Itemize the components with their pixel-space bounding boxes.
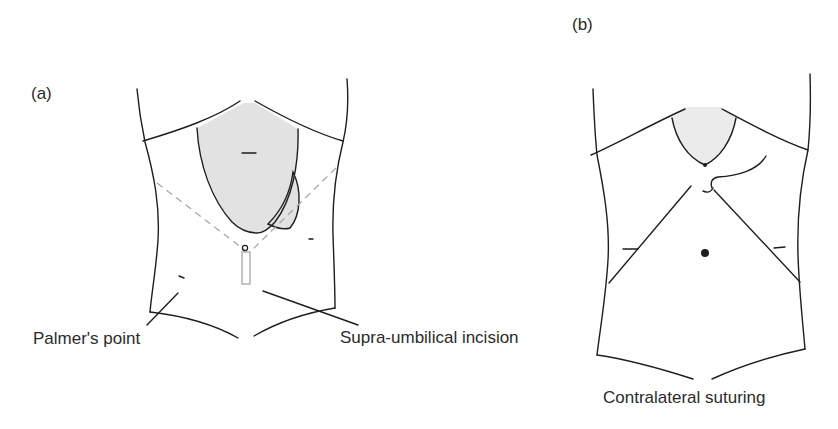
- panel-b-umbilicus-dot: [701, 249, 709, 257]
- panel-a-drawing: [137, 79, 358, 338]
- panel-b-suture-curve: [711, 156, 766, 188]
- panel-b-bottom-left-arc: [597, 355, 693, 379]
- panel-b-left-diagonal: [609, 186, 691, 283]
- panel-a-left-torso-edge: [137, 89, 158, 312]
- panel-a-supra-umbilical-leader: [263, 291, 358, 325]
- panel-a-bottom-left-arc: [150, 312, 238, 338]
- panel-b-right-torso-edge: [798, 74, 811, 349]
- panel-b-label: (b): [572, 16, 593, 33]
- figure-root: (a) (b) Palmer's point Supra-umbilical i…: [0, 0, 838, 429]
- anatomical-diagram: [0, 0, 838, 429]
- panel-b-organ-apex-dot: [703, 163, 707, 167]
- supra-umbilical-incision-annotation: Supra-umbilical incision: [340, 329, 519, 346]
- panel-b-right-rib-arc: [722, 109, 808, 150]
- panel-b-port-mark-right: [774, 247, 785, 248]
- trocar-incision-rect: [242, 252, 250, 284]
- palmers-point-annotation: Palmer's point: [33, 330, 140, 347]
- panel-b-left-torso-edge: [593, 89, 608, 355]
- panel-b-bottom-right-arc: [712, 349, 805, 379]
- panel-a-right-torso-edge: [333, 79, 348, 308]
- panel-a-port-mark-left: [179, 276, 184, 278]
- panel-a-trocar-group: [242, 245, 250, 284]
- panel-a-label: (a): [31, 85, 52, 102]
- panel-b-right-diagonal: [714, 190, 800, 282]
- contralateral-suturing-annotation: Contralateral suturing: [603, 389, 766, 406]
- panel-b-left-rib-arc: [591, 109, 685, 155]
- panel-b-suture-hook: [703, 188, 713, 192]
- panel-b-shaded-organ: [672, 107, 736, 165]
- panel-b-drawing: [591, 74, 810, 379]
